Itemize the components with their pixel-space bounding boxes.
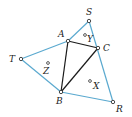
geometry-diagram: S A C T B R Y Z X xyxy=(0,0,132,117)
labels: S A C T B R Y Z X xyxy=(9,7,123,114)
point-x xyxy=(89,80,92,83)
label-y: Y xyxy=(87,34,94,44)
point-y xyxy=(84,34,87,37)
label-b: B xyxy=(55,96,63,106)
vertex-c xyxy=(96,46,99,49)
point-z xyxy=(47,62,50,65)
vertex-a xyxy=(66,39,69,42)
edge-b-t xyxy=(21,59,61,92)
vertex-t xyxy=(19,57,22,60)
vertex-b xyxy=(59,90,62,93)
vertex-r xyxy=(111,100,114,103)
edge-t-a xyxy=(21,41,68,59)
vertex-s xyxy=(87,19,90,22)
label-r: R xyxy=(115,104,123,114)
label-s: S xyxy=(86,7,92,17)
label-a: A xyxy=(57,29,65,39)
label-z: Z xyxy=(42,66,50,76)
edge-r-b xyxy=(61,92,113,102)
label-c: C xyxy=(103,43,110,53)
edge-a-c xyxy=(68,41,98,48)
label-x: X xyxy=(92,81,100,91)
edge-a-s xyxy=(68,21,89,41)
label-t: T xyxy=(9,54,16,64)
